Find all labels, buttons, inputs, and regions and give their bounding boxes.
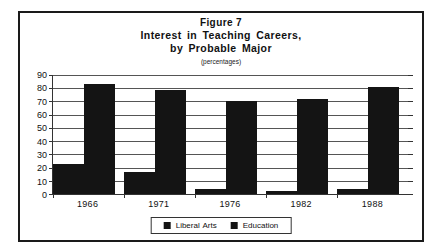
bar-education-1982 xyxy=(297,99,328,194)
y-tick-label-90: 90 xyxy=(37,70,47,80)
y-tick-mark-right-0 xyxy=(408,194,413,195)
x-tick-label-1988: 1988 xyxy=(337,199,408,209)
figure-title-line-1: Interest in Teaching Careers, xyxy=(20,29,422,42)
y-tick-label-50: 50 xyxy=(37,123,47,133)
x-tick-label-1976: 1976 xyxy=(194,199,265,209)
bar-liberal-arts-1988 xyxy=(337,189,368,194)
bars-layer xyxy=(53,75,408,194)
bar-education-1976 xyxy=(226,101,257,194)
x-tick-mark-1982 xyxy=(266,194,267,198)
y-tick-label-40: 40 xyxy=(37,137,47,147)
x-tick-mark-1971 xyxy=(124,194,125,198)
y-tick-label-20: 20 xyxy=(37,163,47,173)
y-tick-mark-right-70 xyxy=(408,101,413,102)
legend-swatch-education xyxy=(231,222,238,229)
chart-plot-wrapper: 0102030405060708090 19661971197619821988 xyxy=(20,75,422,207)
bar-liberal-arts-1982 xyxy=(266,191,297,194)
legend-label-liberal-arts: Liberal Arts xyxy=(176,221,217,230)
y-tick-mark-right-90 xyxy=(408,75,413,76)
y-tick-mark-right-10 xyxy=(408,181,413,182)
figure-frame: Figure 7 Interest in Teaching Careers, b… xyxy=(18,11,424,242)
y-tick-mark-right-20 xyxy=(408,168,413,169)
bar-liberal-arts-1976 xyxy=(195,189,226,194)
bar-education-1988 xyxy=(368,87,399,194)
x-axis-labels: 19661971197619821988 xyxy=(52,199,408,209)
bar-education-1971 xyxy=(155,90,186,194)
figure-title-block: Figure 7 Interest in Teaching Careers, b… xyxy=(20,17,422,68)
y-tick-mark-right-30 xyxy=(408,154,413,155)
bar-education-1966 xyxy=(84,84,115,194)
y-tick-mark-right-60 xyxy=(408,115,413,116)
bar-liberal-arts-1966 xyxy=(53,164,84,194)
chart-plot-area xyxy=(52,75,408,195)
x-tick-label-1982: 1982 xyxy=(266,199,337,209)
y-tick-mark-right-80 xyxy=(408,88,413,89)
figure-title-line-2: by Probable Major xyxy=(20,42,422,55)
bar-group-1976 xyxy=(195,75,266,194)
y-tick-label-10: 10 xyxy=(37,177,47,187)
y-tick-mark-right-40 xyxy=(408,141,413,142)
y-tick-label-0: 0 xyxy=(42,190,47,200)
bar-group-1966 xyxy=(53,75,124,194)
y-tick-mark-right-50 xyxy=(408,128,413,129)
chart-legend: Liberal ArtsEducation xyxy=(151,217,292,234)
x-tick-mark-1966 xyxy=(53,194,54,198)
x-tick-mark-1988 xyxy=(337,194,338,198)
y-tick-label-70: 70 xyxy=(37,97,47,107)
x-tick-label-1971: 1971 xyxy=(123,199,194,209)
y-tick-label-80: 80 xyxy=(37,83,47,93)
bar-group-1988 xyxy=(337,75,408,194)
legend-label-education: Education xyxy=(243,221,279,230)
x-tick-mark-1976 xyxy=(195,194,196,198)
legend-swatch-liberal-arts xyxy=(164,222,171,229)
y-tick-label-30: 30 xyxy=(37,150,47,160)
legend-entry-liberal-arts: Liberal Arts xyxy=(164,221,217,230)
bar-group-1971 xyxy=(124,75,195,194)
y-axis-labels: 0102030405060708090 xyxy=(20,75,50,195)
y-tick-label-60: 60 xyxy=(37,110,47,120)
legend-entry-education: Education xyxy=(231,221,279,230)
figure-number: Figure 7 xyxy=(20,17,422,29)
bar-liberal-arts-1971 xyxy=(124,172,155,194)
x-tick-label-1966: 1966 xyxy=(52,199,123,209)
bar-group-1982 xyxy=(266,75,337,194)
figure-subtitle: (percentages) xyxy=(20,56,422,68)
